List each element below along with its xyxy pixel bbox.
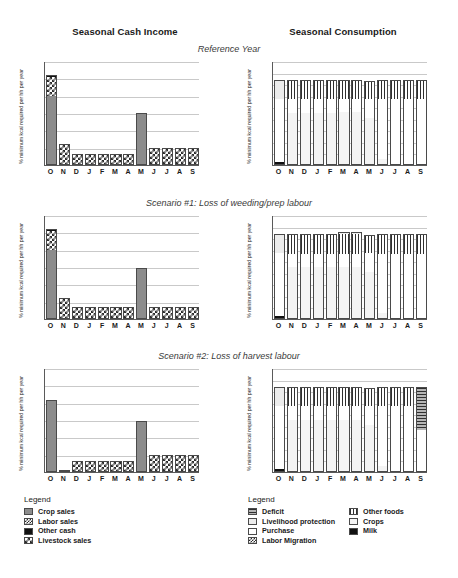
x-tick-label: O <box>44 322 57 329</box>
bar-segment <box>351 112 362 165</box>
bar-N <box>59 471 70 472</box>
bar-segment <box>136 114 147 165</box>
bar-segment <box>123 308 134 319</box>
swatch-checker-icon <box>24 537 33 544</box>
bar-segment <box>46 401 57 472</box>
bar-J <box>162 455 173 472</box>
bar-segment <box>326 99 337 113</box>
bar-segment <box>416 99 427 165</box>
bar-N <box>287 80 298 166</box>
plot-area: 020406080100120140160180 <box>272 216 427 320</box>
bar-segment <box>175 148 186 165</box>
x-tick-label: D <box>298 322 311 329</box>
x-tick-label: A <box>173 322 186 329</box>
bar-segment <box>136 268 147 269</box>
x-tick-label: N <box>285 168 298 175</box>
x-tick-label: M <box>134 168 147 175</box>
x-tick-label: N <box>285 322 298 329</box>
bar-segment <box>149 455 160 472</box>
bar-segment <box>326 80 337 99</box>
bar-segment <box>338 254 349 267</box>
bar-D <box>72 461 83 472</box>
x-tick-label: F <box>324 475 337 482</box>
bar-segment <box>338 267 349 319</box>
bar-segment <box>416 80 427 99</box>
bar-F <box>98 308 109 319</box>
y-tick-mark <box>272 62 273 63</box>
x-tick-label: A <box>350 168 363 175</box>
bar-S <box>416 80 427 166</box>
gridline <box>45 114 199 115</box>
bar-segment <box>377 80 388 99</box>
bar-segment <box>351 99 362 113</box>
x-tick-label: J <box>388 475 401 482</box>
plot-area: 020406080100120140160180 <box>272 62 427 166</box>
panel-subtitle-scenario1: Scenario #1: Loss of weeding/prep labour <box>0 198 458 208</box>
figure-root: Seasonal Cash Income Seasonal Consumptio… <box>0 0 458 578</box>
legend-consumption-label: Crops <box>363 518 384 525</box>
bar-segment <box>326 235 337 254</box>
x-tick-label: O <box>272 322 285 329</box>
y-tick-mark <box>272 239 273 240</box>
y-tick-mark <box>44 97 45 98</box>
x-tick-label: M <box>362 168 375 175</box>
bar-segment <box>287 99 298 113</box>
x-tick-label: J <box>160 168 173 175</box>
y-tick-mark <box>272 216 273 217</box>
bar-A <box>403 80 414 166</box>
y-tick-mark <box>272 381 273 382</box>
y-tick-mark <box>44 251 45 252</box>
bar-segment <box>326 234 337 235</box>
bar-segment <box>274 99 285 163</box>
bar-segment <box>313 254 324 267</box>
bar-M <box>136 421 147 472</box>
x-tick-label: N <box>57 475 70 482</box>
swatch-checker-fine-icon <box>248 537 257 544</box>
bar-F <box>326 234 337 320</box>
legend-income-title: Legend <box>24 495 91 504</box>
bar-segment <box>274 469 285 472</box>
bar-segment <box>72 461 83 472</box>
y-tick-mark <box>272 131 273 132</box>
bar-segment <box>287 235 298 254</box>
bar-O <box>46 400 57 472</box>
bar-segment <box>175 308 186 319</box>
bar-segment <box>351 232 362 233</box>
y-tick-mark <box>44 369 45 370</box>
bar-segment <box>364 235 375 253</box>
legend-consumption-item: Deficit <box>248 508 335 515</box>
y-axis-label: % minimum kcal required per hh per year <box>246 376 252 471</box>
bar-segment <box>46 400 57 401</box>
bar-J <box>377 234 388 320</box>
bar-O <box>274 387 285 473</box>
y-tick-mark <box>44 386 45 387</box>
bar-J <box>162 148 173 165</box>
bar-segment <box>377 234 388 235</box>
x-tick-label: M <box>134 475 147 482</box>
bar-segment <box>287 254 298 267</box>
y-tick-mark <box>272 251 273 252</box>
y-tick-mark <box>44 216 45 217</box>
x-tick-label: M <box>337 322 350 329</box>
bar-segment <box>403 387 414 406</box>
bar-segment <box>149 148 160 165</box>
x-tick-label: A <box>122 168 135 175</box>
bar-J <box>85 461 96 472</box>
bar-segment <box>123 461 134 472</box>
x-tick-label: F <box>96 322 109 329</box>
bar-segment <box>364 253 375 272</box>
bar-segment <box>72 154 83 165</box>
bar-segment <box>390 234 401 235</box>
bar-segment <box>351 254 362 267</box>
bar-M <box>364 235 375 319</box>
bar-segment <box>72 307 83 308</box>
bar-segment <box>162 455 173 472</box>
legend-consumption-item: Labor Migration <box>248 537 335 544</box>
bar-segment <box>377 254 388 313</box>
right-column-title: Seasonal Consumption <box>258 26 428 37</box>
x-tick-label: D <box>70 322 83 329</box>
y-axis-label: % minimum kcal required per hh per year <box>18 223 24 318</box>
bar-segment <box>274 162 285 165</box>
y-tick-mark <box>272 120 273 121</box>
chart-income-scenario2: % minimum kcal required per hh per year0… <box>44 369 199 473</box>
